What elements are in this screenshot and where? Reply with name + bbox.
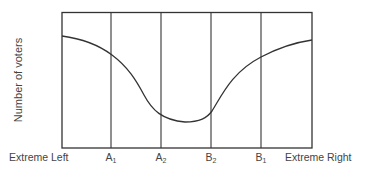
tick-a2: A2 (156, 151, 167, 164)
tick-b2: B2 (206, 151, 217, 164)
voter-distribution-chart (0, 0, 368, 172)
tick-b1: B1 (256, 151, 267, 164)
voter-curve (62, 36, 312, 122)
chart-frame (62, 13, 312, 149)
tick-a1: A1 (106, 151, 117, 164)
x-axis-label-right: Extreme Right (285, 151, 352, 163)
x-axis-label-left: Extreme Left (9, 151, 69, 163)
y-axis-label: Number of voters (12, 38, 24, 122)
